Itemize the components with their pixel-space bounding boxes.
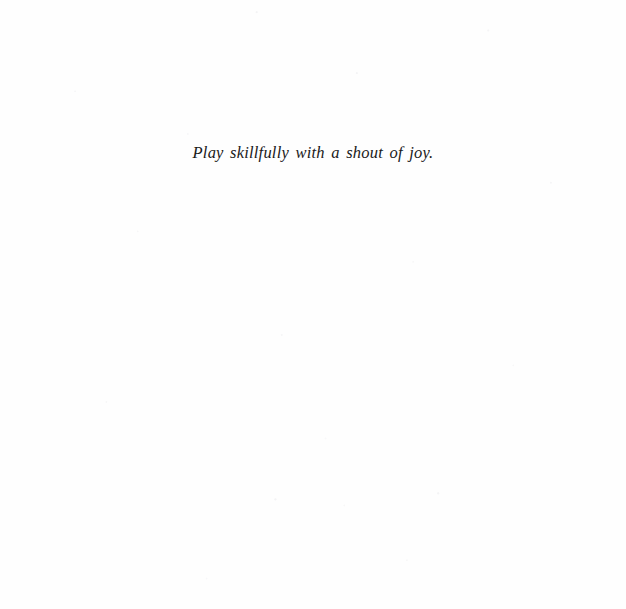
paper-grain-texture — [0, 0, 626, 609]
scanned-page: Play skillfully with a shout of joy. — [0, 0, 626, 609]
epigraph-block: Play skillfully with a shout of joy. — [0, 140, 626, 166]
epigraph-text: Play skillfully with a shout of joy. — [193, 140, 434, 166]
